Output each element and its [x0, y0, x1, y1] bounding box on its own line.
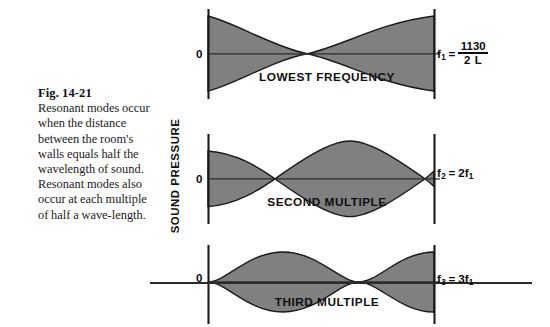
formula-1-symbol: f1: [437, 47, 445, 60]
formula-3-equals: =: [448, 272, 455, 285]
panel-3-extended-axis-line: [150, 282, 532, 284]
formula-3-rhs: 3f1: [458, 272, 473, 285]
formula-second-multiple: f2 = 2f1: [437, 166, 473, 179]
formula-1-subscript: 1: [441, 53, 446, 62]
formula-1-equals: =: [448, 47, 455, 60]
zero-tick-1: 0: [196, 48, 202, 60]
standing-wave-svg-3: [196, 244, 446, 327]
formula-3-subscript: 3: [441, 278, 446, 287]
formula-third-multiple: f3 = 3f1: [437, 272, 473, 285]
figure-root: Fig. 14-21 Resonant modes occur when the…: [0, 0, 550, 327]
formula-2-rhs-subscript: 1: [469, 172, 474, 181]
formula-3-rhs-coefficient: 3f: [458, 272, 468, 285]
standing-wave-plot-2: [196, 133, 446, 225]
formula-3-symbol: f3: [437, 272, 445, 285]
zero-tick-2: 0: [196, 173, 202, 185]
y-axis-label-text: SOUND PRESSURE: [169, 119, 181, 234]
formula-1-denominator: 2 L: [463, 54, 483, 67]
formula-2-rhs: 2f1: [458, 166, 473, 179]
standing-wave-plot-3: [196, 244, 446, 327]
panel-second-multiple: 0 SECOND MULTIPLE: [196, 133, 446, 225]
formula-2-equals: =: [448, 166, 455, 179]
figure-caption-title: Fig. 14-21: [38, 86, 154, 101]
panel-caption-lowest-frequency: LOWEST FREQUENCY: [208, 70, 446, 84]
formula-3-rhs-subscript: 1: [469, 278, 474, 287]
formula-1-numerator: 1130: [460, 40, 487, 53]
panel-lowest-frequency: 0 LOWEST FREQUENCY: [196, 8, 446, 100]
formula-2-rhs-coefficient: 2f: [458, 166, 468, 179]
formula-2-symbol: f2: [437, 166, 445, 179]
formula-2-subscript: 2: [441, 172, 446, 181]
standing-wave-svg-1: [196, 8, 446, 100]
formula-lowest-frequency: f1 = 1130 2 L: [437, 40, 488, 67]
standing-wave-plot-1: [196, 8, 446, 100]
figure-caption-body: Resonant modes occur when the distance b…: [38, 101, 154, 223]
panel-caption-third-multiple: THIRD MULTIPLE: [208, 295, 446, 309]
y-axis-label: SOUND PRESSURE: [163, 108, 187, 244]
formula-1-fraction: 1130 2 L: [458, 40, 488, 67]
panel-caption-second-multiple: SECOND MULTIPLE: [208, 195, 446, 209]
figure-caption: Fig. 14-21 Resonant modes occur when the…: [38, 86, 154, 223]
panel-third-multiple: 0 THIRD MULTIPLE: [196, 244, 446, 327]
standing-wave-svg-2: [196, 133, 446, 225]
